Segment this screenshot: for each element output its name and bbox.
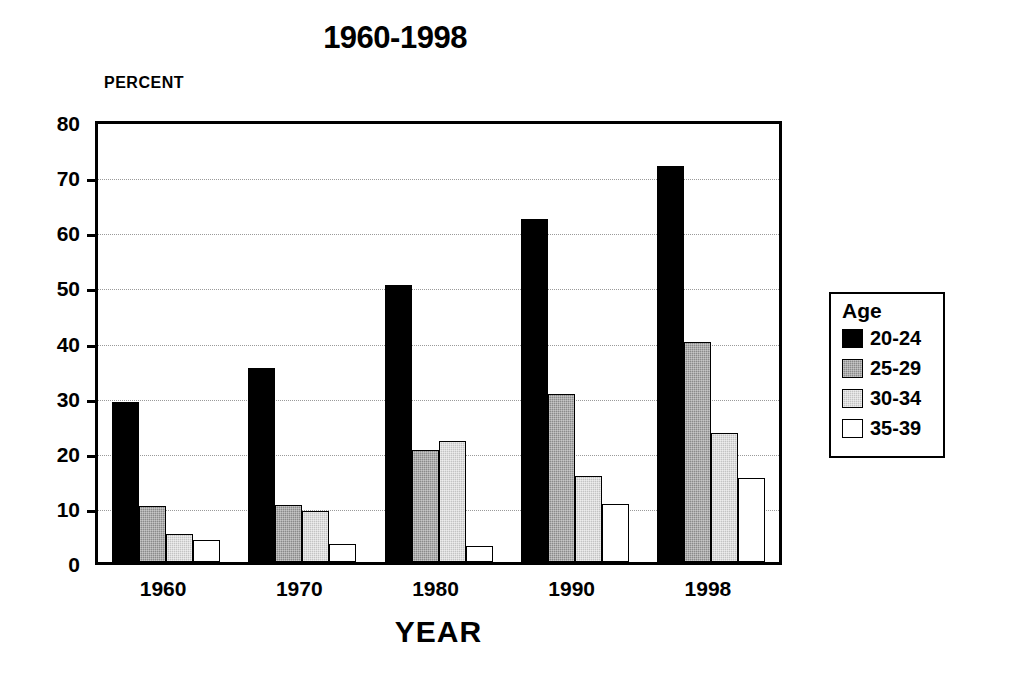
bar[interactable] [112, 402, 139, 562]
legend-swatch-icon [842, 419, 863, 438]
bar-group [385, 121, 493, 562]
y-tick-label: 0 [34, 554, 80, 575]
bar[interactable] [548, 394, 575, 562]
bar[interactable] [602, 504, 629, 562]
bar-chart: 1960-1998 PERCENT 01020304050607080 1960… [0, 0, 1014, 685]
bar[interactable] [575, 476, 602, 562]
bars-layer [95, 121, 782, 565]
bar-group [521, 121, 629, 562]
bar[interactable] [248, 368, 275, 562]
bar[interactable] [329, 544, 356, 562]
legend-title: Age [842, 300, 882, 321]
x-tick-label: 1990 [512, 578, 632, 599]
bar[interactable] [439, 441, 466, 562]
bar[interactable] [166, 534, 193, 562]
y-tick-label: 70 [34, 168, 80, 189]
legend-item-label: 30-34 [870, 388, 921, 408]
legend-item-label: 35-39 [870, 418, 921, 438]
y-tick-label: 60 [34, 223, 80, 244]
x-axis-ticks: 19601970198019901998 [95, 578, 782, 608]
bar[interactable] [412, 450, 439, 562]
legend: Age 20-2425-2930-3435-39 [829, 292, 945, 458]
x-tick-label: 1980 [376, 578, 496, 599]
x-tick-label: 1960 [103, 578, 223, 599]
x-tick-label: 1998 [648, 578, 768, 599]
bar[interactable] [711, 433, 738, 562]
bar[interactable] [684, 342, 711, 562]
legend-item-label: 20-24 [870, 328, 921, 348]
bar[interactable] [521, 219, 548, 562]
x-tick-label: 1970 [239, 578, 359, 599]
x-axis-caption: YEAR [95, 617, 782, 647]
legend-swatch-icon [842, 359, 863, 378]
bar-group [112, 121, 220, 562]
bar[interactable] [275, 505, 302, 562]
y-tick-label: 50 [34, 278, 80, 299]
legend-item-label: 25-29 [870, 358, 921, 378]
y-tick-label: 40 [34, 334, 80, 355]
bar-group [657, 121, 765, 562]
bar[interactable] [385, 285, 412, 562]
y-tick-label: 80 [34, 113, 80, 134]
bar-group [248, 121, 356, 562]
bar[interactable] [302, 511, 329, 562]
legend-swatch-icon [842, 329, 863, 348]
y-tick-label: 20 [34, 444, 80, 465]
bar[interactable] [466, 546, 493, 562]
bar[interactable] [139, 506, 166, 562]
bar[interactable] [657, 166, 684, 562]
bar[interactable] [193, 540, 220, 562]
legend-swatch-icon [842, 389, 863, 408]
y-tick-label: 10 [34, 499, 80, 520]
bar[interactable] [738, 478, 765, 562]
y-tick-label: 30 [34, 389, 80, 410]
